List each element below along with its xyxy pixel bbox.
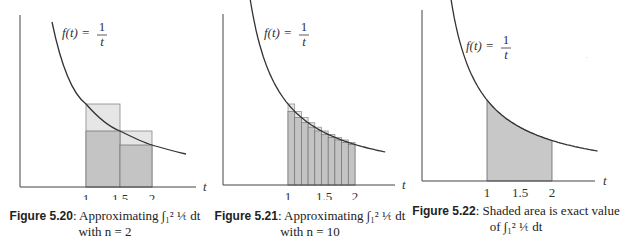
- speck: ·: [586, 55, 588, 61]
- tick-1: 1: [285, 189, 292, 200]
- frac-num: 1: [301, 19, 308, 34]
- frac-den: t: [302, 34, 306, 49]
- frac-num: 1: [99, 19, 106, 34]
- riemann-rects-n10: [288, 104, 355, 185]
- function-label: f(t) =: [264, 25, 292, 40]
- tick-1-5: 1.5: [512, 185, 528, 200]
- tick-1-5: 1.5: [112, 191, 128, 200]
- tick-1: 1: [484, 185, 491, 200]
- lower-rect: [342, 142, 349, 185]
- function-label: f(t) =: [466, 38, 494, 53]
- caption-label: Figure 5.22: [412, 204, 475, 218]
- figure-5-22: f(t) = 1 t 1 1.5 2 t · Figure 5.22: Shad…: [410, 0, 622, 245]
- function-label: f(t) =: [62, 25, 90, 40]
- caption: Figure 5.20: Approximating ∫₁² ¹⁄ₜ dt wi…: [0, 208, 210, 239]
- chart-exact: f(t) = 1 t 1 1.5 2 t ·: [410, 0, 622, 200]
- caption-label: Figure 5.21: [215, 209, 278, 223]
- lower-rect: [328, 137, 335, 185]
- caption-line2: with n = 10: [280, 224, 340, 239]
- caption: Figure 5.22: Shaded area is exact value …: [410, 203, 622, 234]
- caption-label: Figure 5.20: [10, 209, 73, 223]
- figure-5-20: f(t) = 1 t 1 1.5 2 t Figure 5.20: Approx…: [0, 0, 210, 245]
- caption-line2: with n = 2: [78, 224, 131, 239]
- lower-rect: [288, 111, 295, 185]
- axis-label-t: t: [203, 179, 207, 194]
- lower-rect: [348, 145, 355, 186]
- tick-2: 2: [149, 191, 156, 200]
- lower-rect-1: [86, 131, 120, 187]
- caption-text: : Approximating ∫₁² ¹⁄ₜ dt: [278, 208, 406, 223]
- frac-num: 1: [503, 32, 510, 47]
- tick-2: 2: [549, 185, 556, 200]
- lower-rect: [295, 118, 302, 185]
- lower-rect: [335, 140, 342, 185]
- chart-n2: f(t) = 1 t 1 1.5 2 t: [0, 0, 210, 200]
- figure-5-21: f(t) = 1 t 1 1.5 2 t Figure 5.21: Approx…: [210, 0, 410, 245]
- chart-n10: f(t) = 1 t 1 1.5 2 t: [210, 0, 410, 200]
- tick-2: 2: [352, 189, 359, 200]
- lower-rect: [322, 134, 329, 185]
- shaded-area: [487, 100, 552, 181]
- frac-den: t: [504, 47, 508, 62]
- axis-label-t: t: [402, 177, 406, 192]
- lower-rect-2: [120, 145, 152, 187]
- curve-1-over-t: [447, 0, 598, 151]
- caption-text: : Shaded area is exact value: [476, 203, 620, 218]
- axis-label-t: t: [603, 173, 607, 188]
- lower-rect: [308, 127, 315, 185]
- caption: Figure 5.21: Approximating ∫₁² ¹⁄ₜ dt wi…: [210, 208, 410, 239]
- lower-rect: [301, 123, 308, 185]
- tick-1: 1: [83, 191, 90, 200]
- tick-1-5: 1.5: [316, 189, 332, 200]
- lower-rect: [315, 131, 322, 185]
- caption-line2: of ∫₁² ¹⁄ₜ dt: [490, 219, 543, 234]
- frac-den: t: [100, 34, 104, 49]
- caption-text: : Approximating ∫₁² ¹⁄ₜ dt: [73, 208, 201, 223]
